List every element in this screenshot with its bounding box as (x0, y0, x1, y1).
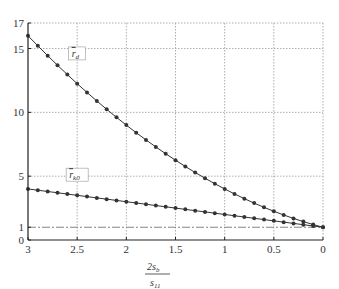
x-tick-label: 0 (320, 243, 326, 255)
data-point (223, 212, 227, 216)
y-tick-label: 17 (13, 17, 25, 29)
data-point (36, 44, 40, 48)
x-tick-label: 3 (25, 243, 31, 255)
data-point (183, 207, 187, 211)
data-point (105, 107, 109, 111)
x-tick-label: 0.5 (267, 243, 281, 255)
x-label-denominator: s11 (150, 277, 160, 289)
data-point (321, 225, 325, 229)
data-point (56, 63, 60, 67)
data-point (213, 182, 217, 186)
data-point (262, 205, 266, 209)
data-point (262, 218, 266, 222)
data-point (65, 73, 69, 77)
data-point (85, 195, 89, 199)
chart: 015101517 32.521.510.50 rdrk0 2sb s11 (0, 0, 339, 289)
data-point (233, 192, 237, 196)
x-tick-label: 2 (124, 243, 130, 255)
data-point (203, 210, 207, 214)
data-point (115, 198, 119, 202)
data-point (301, 223, 305, 227)
y-tick-label: 1 (19, 221, 25, 233)
data-point (134, 201, 138, 205)
data-point (36, 188, 40, 192)
series-1 (26, 187, 325, 229)
data-point (252, 216, 256, 220)
data-point (242, 197, 246, 201)
data-point (46, 189, 50, 193)
y-tick-label: 5 (19, 170, 25, 182)
data-point (272, 209, 276, 213)
data-point (164, 152, 168, 156)
data-point (75, 193, 79, 197)
x-tick-label: 2.5 (70, 243, 84, 255)
data-point (292, 221, 296, 225)
data-point (144, 202, 148, 206)
data-point (203, 176, 207, 180)
data-point (124, 123, 128, 127)
data-point (144, 138, 148, 142)
data-point (95, 196, 99, 200)
data-point (282, 213, 286, 217)
data-point (115, 115, 119, 119)
data-point (95, 99, 99, 103)
x-tick-label: 1 (222, 243, 228, 255)
data-point (233, 214, 237, 218)
data-point (46, 54, 50, 58)
data-point (174, 206, 178, 210)
data-point (252, 201, 256, 205)
data-point (124, 200, 128, 204)
data-point (223, 187, 227, 191)
data-point (193, 209, 197, 213)
data-point (272, 219, 276, 223)
x-axis-label: 2sb s11 (145, 261, 170, 289)
data-point (311, 224, 315, 228)
data-point (56, 191, 60, 195)
data-point (242, 215, 246, 219)
data-point (75, 82, 79, 86)
data-point (154, 145, 158, 149)
data-point (282, 220, 286, 224)
x-tick-label: 1.5 (169, 243, 183, 255)
data-point (134, 131, 138, 135)
data-point (213, 211, 217, 215)
data-point (85, 90, 89, 94)
data-point (164, 205, 168, 209)
y-tick-label: 10 (13, 106, 25, 118)
data-point (154, 204, 158, 208)
data-point (193, 170, 197, 174)
y-tick-label: 15 (13, 43, 25, 55)
data-point (65, 192, 69, 196)
data-point (174, 158, 178, 162)
data-point (292, 216, 296, 220)
data-point (105, 197, 109, 201)
data-point (183, 164, 187, 168)
x-label-numerator: 2sb (147, 261, 160, 274)
y-tick-label: 0 (19, 234, 25, 246)
